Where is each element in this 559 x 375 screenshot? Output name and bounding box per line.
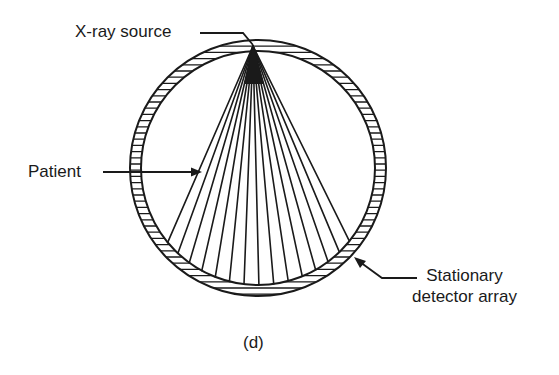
xray-beam-ray: [178, 46, 253, 253]
xray-source-label: X-ray source: [75, 22, 171, 42]
detector-arrow: [354, 257, 417, 278]
detector-array-label: Stationary detector array: [412, 265, 517, 307]
xray-fan-beam: [168, 46, 350, 285]
patient-arrow: [103, 168, 202, 177]
xray-beam-ray: [168, 46, 253, 242]
xray-beam-ray: [189, 46, 253, 263]
figure-caption: (d): [243, 333, 264, 353]
detector-label-line-2: detector array: [412, 286, 517, 307]
arrowhead-icon: [354, 257, 366, 268]
ct-scanner-diagram: [0, 0, 559, 375]
detector-label-line-1: Stationary: [412, 265, 517, 286]
patient-label: Patient: [28, 162, 81, 182]
xray-beam-ray: [253, 46, 339, 252]
xray-beam-ray: [253, 46, 328, 262]
